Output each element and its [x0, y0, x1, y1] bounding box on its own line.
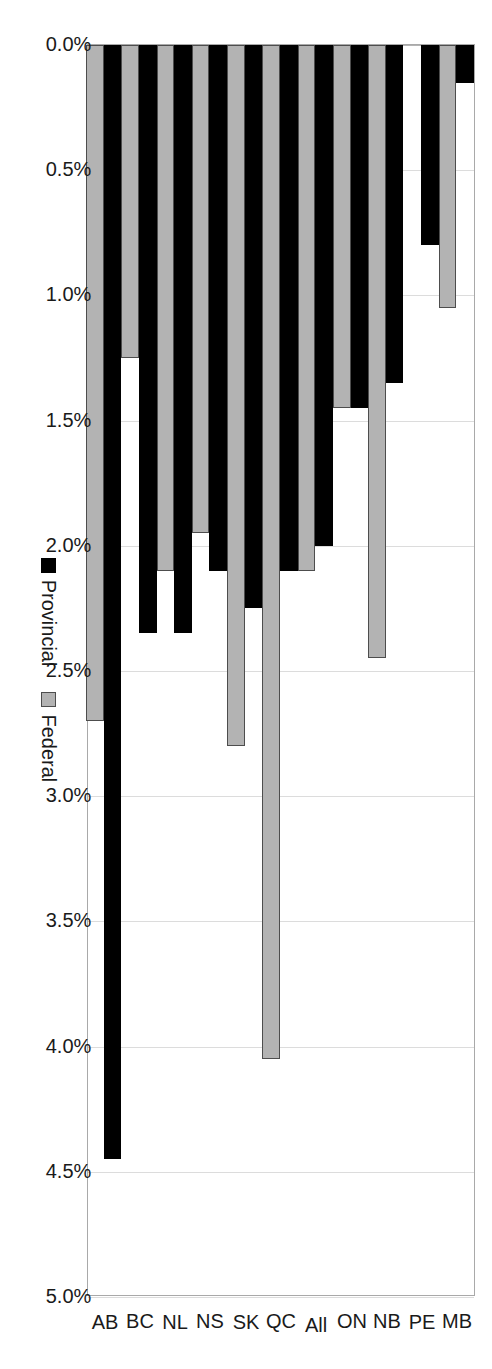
bar-row: [209, 45, 227, 1295]
bar-row: [174, 45, 192, 1295]
bar-row: [368, 45, 386, 1295]
category-label-nl: NL: [162, 1312, 188, 1335]
bar-provincial-pe: [421, 45, 439, 245]
bar-federal-nl: [157, 45, 175, 571]
bar-provincial-sk: [245, 45, 263, 608]
bar-row: [157, 45, 175, 1295]
bar-group: [368, 45, 403, 1295]
bar-row: [245, 45, 263, 1295]
bar-row: [227, 45, 245, 1295]
legend-label: Provincial: [37, 580, 60, 667]
bar-row: [280, 45, 298, 1295]
bar-federal-sk: [227, 45, 245, 746]
category-label-all: All: [305, 1313, 327, 1336]
bar-row: [421, 45, 439, 1295]
plot-area: [87, 44, 475, 1296]
bar-federal-on: [333, 45, 351, 408]
bar-row: [298, 45, 316, 1295]
bar-row: [139, 45, 157, 1295]
bar-provincial-mb: [456, 45, 474, 83]
bar-row: [333, 45, 351, 1295]
bar-group: [298, 45, 333, 1295]
bar-federal-ns: [192, 45, 210, 533]
bar-federal-all: [298, 45, 316, 571]
category-label-nb: NB: [373, 1311, 401, 1334]
bar-provincial-ns: [209, 45, 227, 571]
bar-provincial-qc: [280, 45, 298, 571]
bar-group: [403, 45, 438, 1295]
bar-federal-nb: [368, 45, 386, 658]
legend-item-provincial: Provincial: [37, 558, 60, 667]
bar-group: [192, 45, 227, 1295]
bar-row: [439, 45, 457, 1295]
bar-row: [403, 45, 421, 1295]
gridline: [88, 1297, 474, 1298]
bar-group: [227, 45, 262, 1295]
bar-federal-mb: [439, 45, 457, 308]
gray-square-swatch: [41, 692, 56, 707]
bar-group: [439, 45, 474, 1295]
bar-row: [262, 45, 280, 1295]
bar-row: [351, 45, 369, 1295]
bar-row: [386, 45, 404, 1295]
bar-provincial-bc: [139, 45, 157, 633]
chart-legend: ProvincialFederal: [37, 44, 60, 1296]
bar-provincial-nb: [386, 45, 404, 383]
bar-groups: [88, 45, 474, 1295]
legend-label: Federal: [37, 714, 60, 782]
category-label-sk: SK: [232, 1311, 259, 1334]
bar-group: [333, 45, 368, 1295]
category-label-pe: PE: [409, 1311, 436, 1334]
bar-group: [262, 45, 297, 1295]
bar-provincial-on: [351, 45, 369, 408]
bar-federal-bc: [121, 45, 139, 358]
category-label-mb: MB: [442, 1310, 472, 1333]
category-label-ab: AB: [91, 1311, 118, 1334]
category-label-on: ON: [337, 1310, 367, 1333]
chart-stage: MBPENBONAllQCSKNSNLBCAB 0.0%0.5%1.0%1.5%…: [0, 0, 492, 1369]
bar-row: [192, 45, 210, 1295]
black-square-swatch: [41, 558, 56, 573]
bar-provincial-nl: [174, 45, 192, 633]
bar-group: [157, 45, 192, 1295]
category-label-ns: NS: [197, 1311, 225, 1334]
bar-row: [456, 45, 474, 1295]
category-label-qc: QC: [266, 1310, 296, 1333]
category-label-bc: BC: [126, 1311, 154, 1334]
legend-item-federal: Federal: [37, 692, 60, 782]
bar-provincial-all: [315, 45, 333, 546]
bar-provincial-ab: [104, 45, 122, 1159]
bar-row: [315, 45, 333, 1295]
bar-row: [121, 45, 139, 1295]
bar-federal-ab: [86, 45, 104, 721]
rotated-chart-container: MBPENBONAllQCSKNSNLBCAB 0.0%0.5%1.0%1.5%…: [0, 0, 492, 1369]
bar-federal-qc: [262, 45, 280, 1059]
bar-row: [104, 45, 122, 1295]
bar-group: [121, 45, 156, 1295]
